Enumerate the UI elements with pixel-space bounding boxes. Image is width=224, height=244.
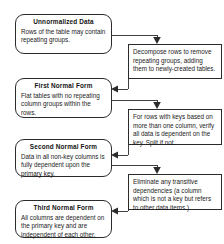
arrowhead-left-1nf bbox=[111, 85, 118, 92]
action-verify-key-dependency[interactable]: For rows with keys based on more than on… bbox=[128, 109, 222, 145]
stage-title-third-normal-form: Third Normal Form bbox=[21, 204, 106, 213]
normalization-flowchart: Unnormalized Data Rows of the table may … bbox=[0, 0, 224, 244]
connector-unf-to-decompose bbox=[112, 35, 157, 42]
connector-1nf-to-verify bbox=[112, 100, 157, 107]
action-body-verify-key-dependency: For rows with keys based on more than on… bbox=[133, 113, 217, 148]
stage-body-unnormalized-data: Rows of the table may contain repeating … bbox=[21, 28, 106, 45]
action-body-decompose-rows: Decompose rows to remove repeating group… bbox=[133, 48, 217, 74]
action-decompose-rows[interactable]: Decompose rows to remove repeating group… bbox=[128, 44, 222, 79]
arrowhead-left-3nf bbox=[111, 207, 118, 214]
arrowhead-down-eliminate bbox=[153, 167, 161, 174]
stage-second-normal-form[interactable]: Second Normal Form Data in all non-key c… bbox=[15, 139, 112, 177]
stage-unnormalized-data[interactable]: Unnormalized Data Rows of the table may … bbox=[15, 14, 112, 54]
arrowhead-down-verify bbox=[153, 102, 161, 109]
stage-first-normal-form[interactable]: First Normal Form Flat tables with no re… bbox=[15, 78, 112, 118]
stage-body-first-normal-form: Flat tables with no repeating column gro… bbox=[21, 92, 106, 118]
connector-2nf-to-eliminate bbox=[112, 165, 157, 172]
arrowhead-down-decompose bbox=[153, 37, 161, 44]
stage-third-normal-form[interactable]: Third Normal Form All columns are depend… bbox=[15, 200, 112, 238]
action-eliminate-transitive-dependencies[interactable]: Eliminate any transitive dependencies (a… bbox=[128, 174, 222, 210]
action-body-eliminate-transitive-dependencies: Eliminate any transitive dependencies (a… bbox=[133, 178, 217, 213]
stage-body-third-normal-form: All columns are dependent on the primary… bbox=[21, 214, 106, 240]
stage-title-unnormalized-data: Unnormalized Data bbox=[21, 18, 106, 27]
stage-title-first-normal-form: First Normal Form bbox=[21, 82, 106, 91]
arrowhead-left-2nf bbox=[111, 151, 118, 158]
stage-title-second-normal-form: Second Normal Form bbox=[21, 143, 106, 152]
stage-body-second-normal-form: Data in all non-key columns is fully dep… bbox=[21, 153, 106, 179]
